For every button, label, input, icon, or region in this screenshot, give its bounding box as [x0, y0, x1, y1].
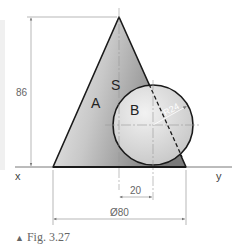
x-axis-label: x	[15, 170, 21, 182]
diameter-dimension-label: Ø80	[110, 207, 129, 218]
cone-sphere-drawing: R24 x y 86 20 Ø80 A S B	[0, 0, 238, 248]
y-axis-label: y	[216, 170, 222, 182]
caption-text: Fig. 3.27	[27, 230, 70, 244]
height-dimension-label: 86	[16, 87, 28, 98]
caption-triangle-icon: ▲	[15, 233, 24, 243]
sphere-label: B	[130, 102, 139, 118]
offset-dimension-label: 20	[130, 185, 142, 196]
figure-caption: ▲Fig. 3.27	[15, 230, 70, 245]
contact-label: S	[111, 77, 120, 93]
cone-label: A	[91, 95, 101, 111]
